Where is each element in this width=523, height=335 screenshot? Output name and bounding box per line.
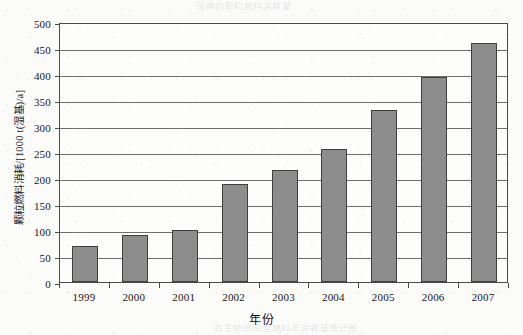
y-axis-tick-label: 500 [34, 18, 51, 30]
y-axis-tick-label: 250 [34, 148, 51, 160]
plot-area: 050100150200250300350400450500 [59, 23, 508, 283]
x-axis-tick [109, 283, 110, 288]
y-axis-tick-label: 350 [34, 96, 51, 108]
x-axis-tick-label: 2007 [472, 291, 495, 303]
bar [321, 149, 347, 282]
x-axis-tick-label: 2000 [122, 291, 145, 303]
x-axis-tick [458, 283, 459, 288]
y-axis-title: 颗粒燃料消耗/[1000 t(湿基)/a] [11, 48, 26, 268]
bar [471, 43, 497, 282]
x-axis-tick-label: 2002 [222, 291, 245, 303]
x-axis-title: 年份 [0, 310, 523, 328]
bar [272, 170, 298, 282]
x-axis-tick-label: 1999 [73, 291, 96, 303]
y-axis-tick-label: 50 [40, 252, 51, 264]
x-axis-tick-label: 2004 [322, 291, 345, 303]
x-axis-tick [209, 283, 210, 288]
x-axis-tick-label: 2006 [422, 291, 445, 303]
x-axis-tick [408, 283, 409, 288]
y-axis-tick-label: 400 [34, 70, 51, 82]
bar-chart-figure: 颗粒燃料消耗/[1000 t(湿基)/a] 050100150200250300… [0, 0, 523, 335]
x-axis-tick [308, 283, 309, 288]
x-axis-tick [508, 283, 509, 288]
x-axis-tick-label: 2001 [172, 291, 195, 303]
bar [72, 246, 98, 282]
y-axis-tick-label: 200 [34, 174, 51, 186]
y-axis-tick-label: 450 [34, 44, 51, 56]
x-axis-tick-label: 2005 [372, 291, 395, 303]
x-axis: 199920002001200220032004200520062007 [59, 283, 508, 313]
x-axis-tick [59, 283, 60, 288]
bar [172, 230, 198, 282]
bar [122, 235, 148, 282]
bar [222, 184, 248, 282]
bar [371, 110, 397, 282]
bar [421, 77, 447, 282]
x-axis-tick-label: 2003 [272, 291, 295, 303]
x-axis-tick [259, 283, 260, 288]
y-axis-tick-label: 150 [34, 200, 51, 212]
y-axis-tick-label: 100 [34, 226, 51, 238]
y-axis-tick-label: 0 [45, 278, 51, 290]
y-axis-tick-label: 300 [34, 122, 51, 134]
x-axis-tick [358, 283, 359, 288]
x-axis-tick [159, 283, 160, 288]
bar-series [60, 24, 507, 282]
